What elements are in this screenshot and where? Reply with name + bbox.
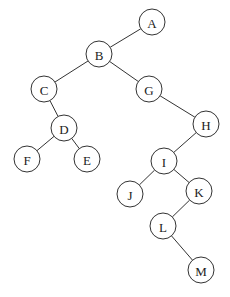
node-label: K [194,185,204,200]
node-label: J [127,188,132,203]
node-label: I [162,155,166,170]
edge-h-i [174,133,196,153]
node-label: M [195,264,207,279]
edge-d-f [37,136,54,150]
tree-node-d: D [51,115,77,141]
edge-i-k [174,169,189,182]
node-label: A [147,16,157,31]
tree-node-f: F [14,146,40,172]
binary-tree-diagram: ABCGDHFEIJKLM [0,0,230,297]
edge-b-c [55,61,88,82]
tree-node-h: H [193,111,219,137]
node-label: G [144,83,153,98]
tree-node-i: I [151,148,177,174]
edge-g-h [160,96,195,117]
edge-a-b [110,29,141,48]
edge-k-l [172,200,189,217]
edge-d-e [72,138,80,148]
node-label: C [40,83,49,98]
edge-c-d [50,101,58,117]
node-label: F [23,153,30,168]
tree-node-j: J [117,181,143,207]
tree-node-l: L [150,213,176,239]
tree-node-b: B [86,41,112,67]
edge-l-m [171,236,192,260]
tree-node-m: M [188,257,214,283]
tree-nodes: ABCGDHFEIJKLM [14,9,219,283]
edge-i-j [139,170,154,185]
node-label: B [95,48,104,63]
tree-node-k: K [186,178,212,204]
node-label: D [59,122,68,137]
tree-node-e: E [74,146,100,172]
tree-node-a: A [139,9,165,35]
node-label: E [83,153,91,168]
tree-node-c: C [31,76,57,102]
tree-node-g: G [136,76,162,102]
node-label: L [159,220,167,235]
node-label: H [201,118,210,133]
edge-b-g [110,61,139,81]
